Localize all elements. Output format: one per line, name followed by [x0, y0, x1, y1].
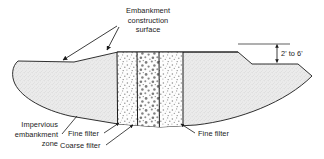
embankment-surface-label-line3: surface: [136, 25, 161, 34]
lift-thickness-dimension: 2' to 6': [238, 44, 303, 63]
fine-filter-left-leader: [104, 123, 119, 133]
filter-zone-group: [117, 50, 183, 130]
embankment-cross-section-figure: Embankment construction surface 2' to 6'…: [0, 0, 324, 159]
fine-filter-left-label: Fine filter: [68, 123, 119, 138]
boundary-2: [137, 52, 138, 126]
coarse-filter-leader: [106, 125, 133, 145]
embankment-surface-label: Embankment construction surface: [126, 6, 170, 34]
embankment-surface-label-line1: Embankment: [126, 6, 170, 15]
fine-filter-left-zone: [117, 50, 137, 128]
impervious-zone-label-line3: zone: [42, 139, 58, 148]
fine-filter-right-zone: [159, 50, 183, 130]
fine-filter-right-label: Fine filter: [181, 124, 229, 138]
leader-to-crest: [107, 27, 119, 50]
impervious-zone-label-line1: Impervious: [21, 120, 58, 129]
coarse-filter-text: Coarse filter: [60, 141, 101, 150]
fine-filter-left-text: Fine filter: [68, 129, 99, 138]
embankment-surface-label-line2: construction: [128, 16, 168, 25]
lift-thickness-text: 2' to 6': [281, 49, 303, 58]
diagram-canvas: Embankment construction surface 2' to 6'…: [0, 0, 324, 159]
boundary-1: [117, 52, 118, 124]
impervious-zone-label-line2: embankment: [15, 130, 58, 139]
fine-filter-right-text: Fine filter: [198, 129, 229, 138]
coarse-filter-zone: [137, 50, 159, 130]
